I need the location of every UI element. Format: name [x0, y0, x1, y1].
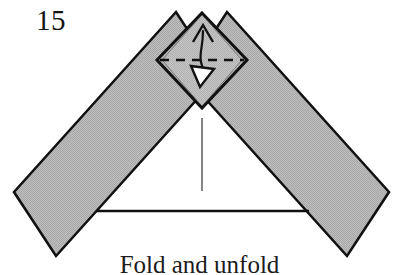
- figure-caption: Fold and unfold: [0, 252, 399, 275]
- origami-diagram-page: 15: [0, 0, 399, 275]
- origami-figure: [0, 0, 399, 275]
